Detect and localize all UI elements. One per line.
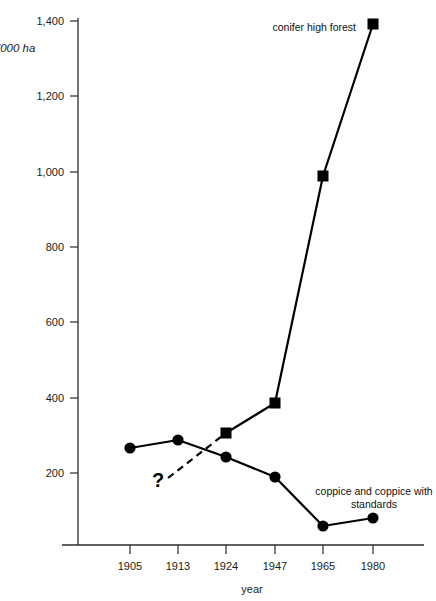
coppice-marker-1905 — [124, 442, 135, 453]
conifer-high-forest-annotation: conifer high forest — [273, 21, 357, 33]
y-tick-label-800: 800 — [46, 241, 64, 253]
y-tick-label-1400: 1,400 — [36, 15, 64, 27]
x-tick-label-1913: 1913 — [166, 560, 190, 572]
y-axis-ticks: 1,400 1,200 1,000 800 600 400 200 — [36, 15, 78, 479]
y-tick-label-600: 600 — [46, 316, 64, 328]
series-conifer-high-forest — [168, 19, 379, 479]
chart-container: 1,400 1,200 1,000 800 600 400 200 '000 h… — [0, 0, 436, 601]
x-tick-label-1905: 1905 — [118, 560, 142, 572]
conifer-series-label: conifer high forest — [273, 21, 357, 33]
coppice-marker-1980 — [367, 512, 378, 523]
y-tick-label-200: 200 — [46, 467, 64, 479]
conifer-marker-1924 — [221, 428, 232, 439]
x-tick-label-1947: 1947 — [263, 560, 287, 572]
uncertainty-question-mark: ? — [152, 469, 164, 491]
coppice-marker-1913 — [172, 434, 183, 445]
x-axis-title: year — [241, 583, 263, 595]
y-tick-label-1000: 1,000 — [36, 166, 64, 178]
x-tick-label-1965: 1965 — [311, 560, 335, 572]
coppice-series-label-line1: coppice and coppice with — [315, 485, 432, 497]
x-axis-ticks: 1905 1913 1924 1947 1965 1980 — [118, 545, 385, 572]
conifer-marker-1965 — [318, 171, 329, 182]
coppice-series-annotation: coppice and coppice with standards — [315, 485, 432, 510]
coppice-series-label-line2: standards — [351, 498, 397, 510]
coppice-line — [130, 440, 373, 526]
line-chart: 1,400 1,200 1,000 800 600 400 200 '000 h… — [0, 0, 436, 601]
conifer-marker-1947 — [270, 398, 281, 409]
axes-group — [62, 18, 424, 545]
conifer-marker-1980 — [368, 19, 379, 30]
coppice-marker-1924 — [220, 451, 231, 462]
x-tick-label-1924: 1924 — [214, 560, 238, 572]
y-tick-label-400: 400 — [46, 392, 64, 404]
conifer-line — [226, 24, 373, 433]
y-axis-unit-label: '000 ha — [0, 42, 35, 54]
x-tick-label-1980: 1980 — [361, 560, 385, 572]
y-tick-label-1200: 1,200 — [36, 90, 64, 102]
coppice-marker-1947 — [269, 471, 280, 482]
coppice-marker-1965 — [317, 520, 328, 531]
